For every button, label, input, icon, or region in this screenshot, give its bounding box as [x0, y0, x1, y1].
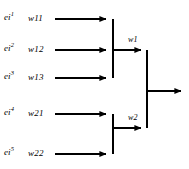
- weight-label-4: w21: [28, 109, 44, 118]
- weight-label-3: w13: [28, 73, 44, 82]
- input-signal-label-5: ei5: [4, 148, 14, 157]
- input-signal-label-2: ei2: [4, 44, 14, 53]
- input-signal-label-3: ei3: [4, 72, 14, 81]
- weight-label-5: w22: [28, 149, 44, 158]
- input-signal-label-1: ei1: [4, 13, 14, 22]
- input-signal-label-4: ei4: [4, 108, 14, 117]
- node-label-w2: w2: [128, 114, 138, 122]
- aggregation-diagram: ei1 ei2 ei3 ei4 ei5 w11 w12 w13 w21 w22 …: [0, 0, 189, 169]
- diagram-wiring: [0, 0, 189, 169]
- node-label-w1: w1: [128, 36, 138, 44]
- weight-label-1: w11: [28, 14, 43, 23]
- weight-label-2: w12: [28, 45, 44, 54]
